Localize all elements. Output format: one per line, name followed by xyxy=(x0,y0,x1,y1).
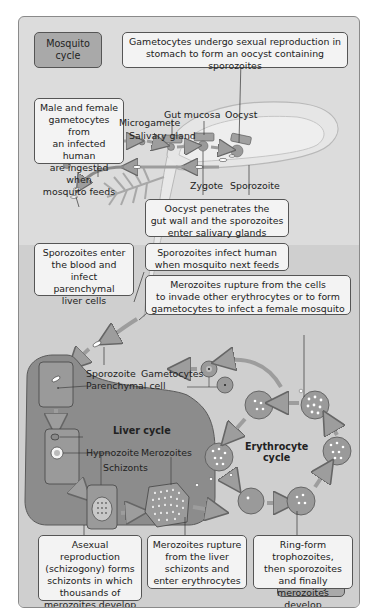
diagram-frame: Mosquito cycle Human cycle Gametocytes u… xyxy=(18,16,360,608)
callout-merozoites-rupture-liver: Merozoites rupture from the liver schizo… xyxy=(147,535,247,589)
callout-gametocytes-sexual-reproduction: Gametocytes undergo sexual reproduction … xyxy=(122,32,348,68)
label-hypnozoite: Hypnozoite xyxy=(86,447,139,458)
label-schizonts: Schizonts xyxy=(103,462,148,473)
label-parenchymal-cell: Parenchymal cell xyxy=(86,380,166,391)
callout-oocyst-penetrates: Oocyst penetrates the gut wall and the s… xyxy=(145,199,289,237)
label-sporozoite-human: Sporozoite xyxy=(86,368,136,379)
label-microgamete: Microgamete xyxy=(119,117,180,128)
label-oocyst: Oocyst xyxy=(225,109,257,120)
label-erythrocyte-cycle: Erythrocyte cycle xyxy=(245,441,308,463)
callout-ring-form-trophozoites: Ring-form trophozoites, then sporozoites… xyxy=(253,535,353,589)
label-gametocytes: Gametocytes xyxy=(141,368,203,379)
callout-sporozoites-infect-human: Sporozoites infect human when mosquito n… xyxy=(145,243,289,271)
callout-merozoites-rupture-cells: Merozoites rupture from the cells to inv… xyxy=(145,275,351,315)
mosquito-cycle-tag: Mosquito cycle xyxy=(34,32,102,68)
callout-sporozoites-enter-blood: Sporozoites enter the blood and infect p… xyxy=(34,243,134,296)
label-merozoites: Merozoites xyxy=(141,447,192,458)
label-salivary-gland: Salivary gland xyxy=(129,130,196,141)
label-sporozoite-mosquito: Sporozoite xyxy=(230,180,280,191)
label-liver-cycle: Liver cycle xyxy=(113,425,171,436)
callout-male-female-gametocytes: Male and female gametocytes from an infe… xyxy=(34,98,124,164)
callout-asexual-reproduction: Asexual reproduction (schizogony) forms … xyxy=(38,535,142,601)
label-zygote: Zygote xyxy=(190,180,223,191)
